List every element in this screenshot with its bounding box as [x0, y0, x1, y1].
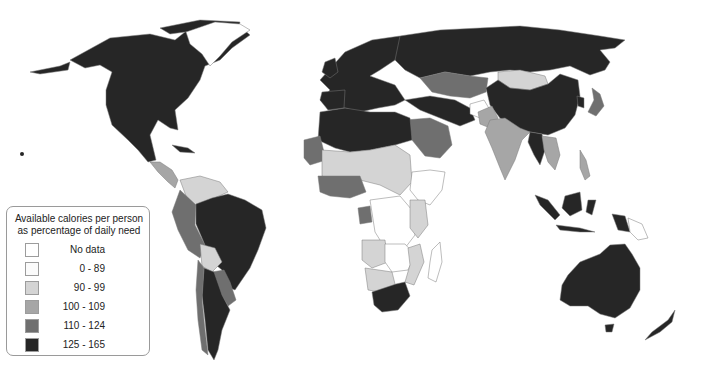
region-papua-new-guinea — [628, 218, 648, 240]
region-kazakhstan — [420, 72, 488, 98]
region-russia — [395, 26, 625, 78]
legend-swatch — [25, 243, 39, 257]
legend-item-0-89: 0 - 89 — [25, 262, 145, 276]
region-korea — [577, 96, 584, 108]
region-west-africa-coast — [318, 176, 366, 198]
legend-label: No data — [45, 243, 105, 257]
legend-swatch — [25, 281, 39, 295]
region-sulawesi — [586, 200, 596, 215]
legend-item-90-99: 90 - 99 — [25, 281, 145, 295]
region-caribbean — [172, 145, 195, 153]
region-indochina — [542, 136, 560, 170]
region-tasmania — [605, 324, 614, 332]
legend-title: Available calories per person as percent… — [7, 213, 151, 237]
region-sumatra — [535, 195, 560, 220]
region-north-africa — [318, 108, 412, 152]
legend-swatch — [25, 319, 39, 333]
region-papua-west — [612, 214, 630, 232]
legend-label: 125 - 165 — [45, 338, 105, 352]
region-new-zealand — [645, 310, 675, 340]
region-angola — [362, 240, 388, 268]
legend-label: 100 - 109 — [45, 300, 105, 314]
legend-swatch — [25, 262, 39, 276]
legend-item-110-124: 110 - 124 — [25, 319, 145, 333]
region-madagascar — [428, 242, 442, 282]
region-australia — [560, 244, 640, 318]
legend-item-100-109: 100 - 109 — [25, 300, 145, 314]
region-hawaii — [20, 152, 24, 156]
legend-swatch — [25, 338, 39, 352]
legend-label: 110 - 124 — [45, 319, 105, 333]
legend-label: 0 - 89 — [45, 262, 105, 276]
region-java — [556, 225, 595, 232]
region-alaska-tail — [30, 62, 70, 74]
legend-title-line2: as percentage of daily need — [7, 225, 151, 237]
legend-item-125-165: 125 - 165 — [25, 338, 145, 352]
legend-swatch — [25, 300, 39, 314]
map-legend: Available calories per person as percent… — [6, 206, 150, 356]
region-iberia — [320, 90, 345, 110]
legend-label: 90 - 99 — [45, 281, 105, 295]
region-philippines — [580, 150, 590, 180]
region-central-america — [150, 162, 178, 188]
legend-item-no-data: No data — [25, 243, 145, 257]
region-gabon — [358, 206, 372, 224]
region-japan — [588, 88, 604, 116]
region-borneo — [562, 192, 582, 216]
legend-title-line1: Available calories per person — [7, 213, 151, 225]
